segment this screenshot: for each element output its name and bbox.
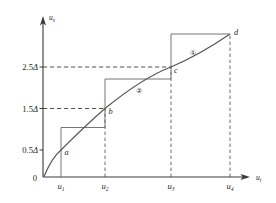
point-label-b: b bbox=[109, 107, 113, 116]
region-labels: ① ② bbox=[136, 49, 196, 95]
y-tick-value-1: 1.5 bbox=[22, 104, 33, 114]
region-label-1: ① bbox=[190, 49, 196, 57]
y-axis-sub: s bbox=[53, 17, 55, 23]
chart-svg: 0.5Δ 1.5Δ 2.5Δ 0 u1 u2 u3 u4 bbox=[0, 0, 276, 203]
x-tick-sub-3: 4 bbox=[231, 186, 234, 192]
y-tick-label-0: 0.5Δ bbox=[22, 145, 38, 155]
y-tick-label-1: 1.5Δ bbox=[22, 104, 38, 114]
x-tick-sub-2: 3 bbox=[171, 186, 175, 192]
x-tick-labels: u1 u2 u3 u4 bbox=[57, 181, 233, 192]
x-tick-label-u2: u2 bbox=[101, 181, 108, 192]
horizontal-guides bbox=[43, 67, 171, 109]
y-tick-symbol-1: Δ bbox=[32, 104, 38, 114]
x-tick-label-u4: u4 bbox=[226, 181, 233, 192]
step-approximation-path bbox=[61, 34, 230, 177]
curve-polyline bbox=[44, 34, 230, 177]
y-tick-symbol-0: Δ bbox=[32, 145, 38, 155]
figure-container: 0.5Δ 1.5Δ 2.5Δ 0 u1 u2 u3 u4 bbox=[0, 0, 276, 203]
curve-point-labels: a b c d bbox=[65, 28, 240, 157]
y-axis-label: us bbox=[49, 13, 55, 23]
origin-label: 0 bbox=[33, 173, 37, 183]
point-label-c: c bbox=[174, 66, 178, 75]
region-label-2: ② bbox=[136, 87, 142, 95]
x-tick-label-u1: u1 bbox=[57, 181, 64, 192]
x-axis-sub: i bbox=[260, 177, 262, 183]
concave-curve-path bbox=[44, 34, 230, 177]
step-polyline bbox=[61, 34, 230, 177]
y-tick-symbol-2: Δ bbox=[32, 62, 38, 72]
vertical-drop-lines bbox=[105, 34, 230, 177]
x-axis-label: ui bbox=[256, 173, 262, 183]
y-tick-value-2: 2.5 bbox=[22, 62, 33, 72]
axes-group bbox=[40, 16, 250, 180]
x-tick-sub-0: 1 bbox=[62, 186, 65, 192]
point-label-d: d bbox=[234, 28, 239, 37]
x-tick-label-u3: u3 bbox=[167, 181, 174, 192]
y-tick-value-0: 0.5 bbox=[22, 145, 33, 155]
x-tick-sub-1: 2 bbox=[106, 186, 109, 192]
y-tick-labels: 0.5Δ 1.5Δ 2.5Δ bbox=[22, 62, 38, 155]
point-label-a: a bbox=[65, 148, 69, 157]
y-tick-label-2: 2.5Δ bbox=[22, 62, 38, 72]
